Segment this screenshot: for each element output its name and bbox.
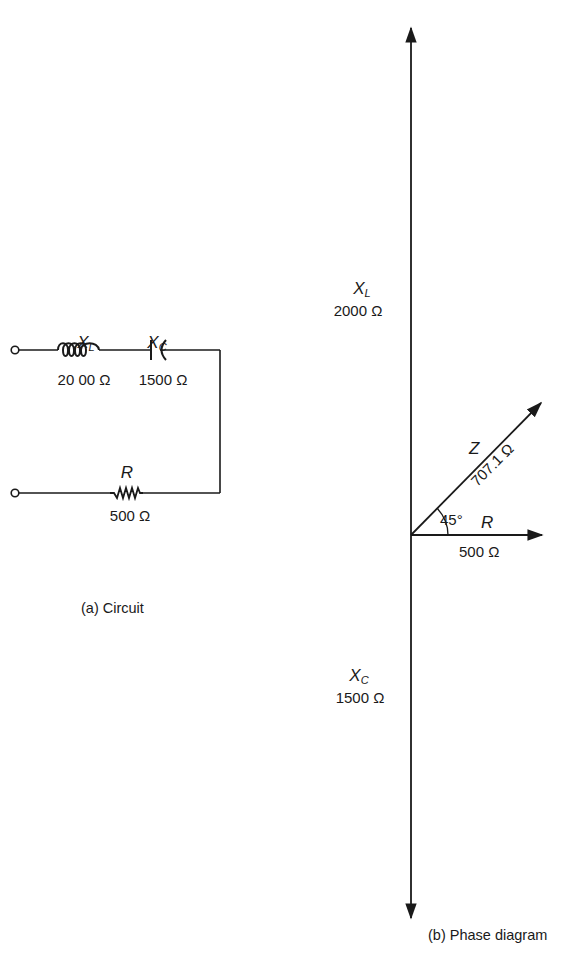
xc-value-label: 1500 Ω [336, 690, 385, 705]
inductor-symbol-label: XL [77, 334, 94, 353]
z-symbol-label: Z [469, 440, 479, 457]
phase-diagram-caption: (b) Phase diagram [428, 928, 547, 943]
xl-symbol-label: XL [353, 280, 370, 299]
circuit-schematic [11, 340, 220, 498]
angle-label: 45° [440, 512, 463, 527]
resistor-icon [110, 488, 143, 498]
xc-symbol-label: XC [349, 667, 368, 686]
inductor-value-label: 20 00 Ω [58, 372, 111, 387]
capacitor-value-label: 1500 Ω [139, 372, 188, 387]
resistor-symbol-label: R [121, 464, 133, 481]
resistor-value-label: 500 Ω [110, 508, 150, 523]
circuit-caption: (a) Circuit [81, 601, 144, 616]
r-value-label: 500 Ω [459, 544, 499, 559]
r-symbol-label: R [481, 514, 493, 531]
input-terminal-top [11, 346, 19, 354]
diagram-drawing [0, 0, 583, 955]
capacitor-symbol-label: XC [147, 334, 166, 353]
input-terminal-bottom [11, 489, 19, 497]
xl-value-label: 2000 Ω [334, 303, 383, 318]
